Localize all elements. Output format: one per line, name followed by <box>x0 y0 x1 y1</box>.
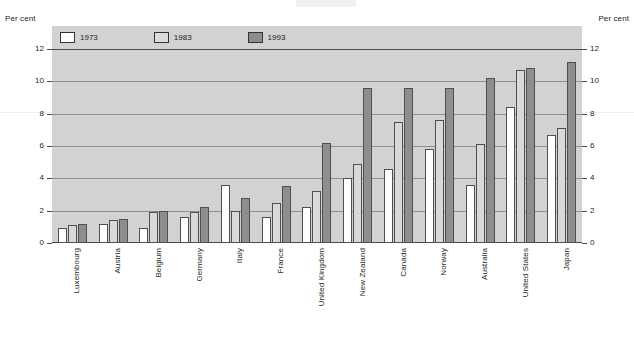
tick-mark-right-4 <box>582 178 587 179</box>
legend-swatch-icon <box>60 32 75 43</box>
bar-group <box>297 49 338 243</box>
plot-area: 197319831993 <box>52 26 582 243</box>
bar-group <box>134 49 175 243</box>
bar[interactable] <box>159 211 168 243</box>
x-axis-tick: France <box>256 246 297 334</box>
legend-label: 1983 <box>174 33 192 42</box>
bar[interactable] <box>425 149 434 243</box>
x-axis-tick: Germany <box>174 246 215 334</box>
legend-label: 1993 <box>268 33 286 42</box>
bar[interactable] <box>506 107 515 243</box>
bar[interactable] <box>486 78 495 243</box>
bar[interactable] <box>384 169 393 243</box>
bar[interactable] <box>272 203 281 243</box>
bar[interactable] <box>139 228 148 243</box>
x-axis-tick: Norway <box>419 246 460 334</box>
bar-group <box>256 49 297 243</box>
bar[interactable] <box>68 225 77 243</box>
bar[interactable] <box>516 70 525 243</box>
bar-group <box>419 49 460 243</box>
x-axis-tick: Italy <box>215 246 256 334</box>
bar[interactable] <box>312 191 321 243</box>
x-axis-tick: New Zealand <box>337 246 378 334</box>
x-axis-label: France <box>276 248 285 274</box>
grid-region <box>52 49 582 243</box>
bar-groups <box>52 49 582 243</box>
bar[interactable] <box>526 68 535 243</box>
x-axis-label: Italy <box>235 248 244 263</box>
x-axis-tick: Luxembourg <box>52 246 93 334</box>
legend-1973[interactable]: 1973 <box>60 32 98 43</box>
bar[interactable] <box>99 224 108 243</box>
bar[interactable] <box>180 217 189 243</box>
bar[interactable] <box>262 217 271 243</box>
x-axis-label: Luxembourg <box>72 248 81 293</box>
x-axis-tick: Australia <box>460 246 501 334</box>
bar[interactable] <box>547 135 556 243</box>
bar[interactable] <box>119 219 128 243</box>
x-axis-tick: United Kingdom <box>297 246 338 334</box>
bar[interactable] <box>567 62 576 243</box>
bar[interactable] <box>149 212 158 243</box>
bar[interactable] <box>557 128 566 243</box>
x-axis-label: Norway <box>439 248 448 276</box>
bar[interactable] <box>109 220 118 243</box>
tick-mark-right-12 <box>582 49 587 50</box>
x-axis-category-labels: LuxembourgAustriaBelgiumGermanyItalyFran… <box>52 246 582 334</box>
bar[interactable] <box>282 186 291 243</box>
legend-label: 1973 <box>80 33 98 42</box>
bar-group <box>93 49 134 243</box>
x-axis-tick: Japan <box>541 246 582 334</box>
bar[interactable] <box>231 211 240 243</box>
bar[interactable] <box>476 144 485 243</box>
x-axis-label: Germany <box>195 248 204 282</box>
bar[interactable] <box>322 143 331 243</box>
tick-mark-right-6 <box>582 146 587 147</box>
legend-1993[interactable]: 1993 <box>248 32 286 43</box>
x-axis-label: Canada <box>399 248 408 277</box>
bar[interactable] <box>200 207 209 243</box>
bar-group <box>215 49 256 243</box>
bar-group <box>460 49 501 243</box>
bar[interactable] <box>435 120 444 243</box>
bar-group <box>52 49 93 243</box>
legend-1983[interactable]: 1983 <box>154 32 192 43</box>
bar[interactable] <box>363 88 372 243</box>
x-axis-label: Australia <box>480 248 489 280</box>
bar-group <box>541 49 582 243</box>
tick-mark-right-0 <box>582 243 587 244</box>
bar-group <box>378 49 419 243</box>
legend-swatch-icon <box>154 32 169 43</box>
bar[interactable] <box>466 185 475 243</box>
x-axis-label: Belgium <box>154 248 163 278</box>
x-axis-tick: Austria <box>93 246 134 334</box>
x-axis-label: New Zealand <box>358 248 367 296</box>
bar[interactable] <box>445 88 454 243</box>
bar[interactable] <box>404 88 413 243</box>
bar[interactable] <box>190 212 199 243</box>
bar[interactable] <box>78 224 87 243</box>
x-axis-label: United States <box>521 248 530 297</box>
x-axis-label: Japan <box>562 248 571 270</box>
tick-mark-left-0 <box>47 243 52 244</box>
bar[interactable] <box>343 178 352 243</box>
x-axis-label: United Kingdom <box>317 248 326 306</box>
tick-mark-right-10 <box>582 81 587 82</box>
x-axis-tick: Belgium <box>134 246 175 334</box>
y-axis-right: 024681012 <box>582 0 634 338</box>
bar[interactable] <box>221 185 230 243</box>
bar[interactable] <box>302 207 311 243</box>
chart-figure: Per cent Per cent 024681012 024681012 19… <box>0 0 634 338</box>
legend-swatch-icon <box>248 32 263 43</box>
bar[interactable] <box>394 122 403 243</box>
bar[interactable] <box>58 228 67 243</box>
page-artifact-top <box>296 0 356 7</box>
tick-mark-right-8 <box>582 114 587 115</box>
x-axis-tick: Canada <box>378 246 419 334</box>
y-axis-left: 024681012 <box>0 0 52 338</box>
bar-group <box>174 49 215 243</box>
bar[interactable] <box>353 164 362 243</box>
bar[interactable] <box>241 198 250 243</box>
x-axis-tick: United States <box>500 246 541 334</box>
bar-group <box>337 49 378 243</box>
